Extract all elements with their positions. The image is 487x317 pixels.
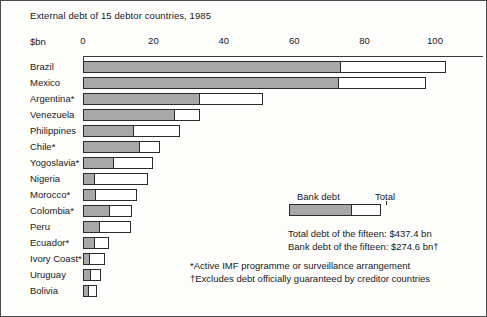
category-label: Uruguay xyxy=(1,267,79,283)
bank-debt-segment xyxy=(84,174,95,184)
total-debt-bar xyxy=(83,253,105,265)
summary-line: Total debt of the fifteen: $437.4 bn xyxy=(288,228,439,241)
bank-debt-segment xyxy=(84,270,91,280)
bank-debt-segment xyxy=(84,158,114,168)
legend-swatch xyxy=(289,204,381,216)
total-debt-bar xyxy=(83,285,97,297)
bar-row xyxy=(83,283,483,299)
category-label: Yogoslavia* xyxy=(1,155,79,171)
bank-debt-segment xyxy=(84,222,100,232)
x-axis-tick-100: 100 xyxy=(427,35,443,46)
chart-title: External debt of 15 debtor countries, 19… xyxy=(30,10,211,21)
category-label: Nigeria xyxy=(1,171,79,187)
category-label: Argentina* xyxy=(1,91,79,107)
summary-annotations: Total debt of the fifteen: $437.4 bnBank… xyxy=(288,228,439,253)
total-debt-bar xyxy=(83,93,263,105)
category-axis-labels: BrazilMexicoArgentina*VenezuelaPhilippin… xyxy=(1,59,79,303)
total-debt-bar xyxy=(83,221,131,233)
bank-debt-segment xyxy=(84,238,95,248)
category-label: Philippines xyxy=(1,123,79,139)
x-axis-tick-40: 40 xyxy=(219,35,230,46)
total-debt-bar xyxy=(83,269,101,281)
bar-row xyxy=(83,107,483,123)
total-debt-bar xyxy=(83,205,132,217)
bank-debt-segment xyxy=(84,190,96,200)
legend-label-row: Bank debt Total xyxy=(289,191,419,204)
category-label: Mexico xyxy=(1,75,79,91)
bar-row xyxy=(83,171,483,187)
legend-total-pointer-tick xyxy=(386,201,387,205)
category-label: Venezuela xyxy=(1,107,79,123)
category-label: Peru xyxy=(1,219,79,235)
total-debt-bar xyxy=(83,237,109,249)
x-axis-tick-80: 80 xyxy=(359,35,370,46)
total-debt-bar xyxy=(83,189,137,201)
legend-bank-debt-label: Bank debt xyxy=(297,191,340,202)
total-debt-bar xyxy=(83,157,153,169)
bank-debt-segment xyxy=(84,206,110,216)
x-axis-line xyxy=(83,56,483,57)
total-debt-bar xyxy=(83,141,160,153)
bar-row xyxy=(83,123,483,139)
x-axis-tick-60: 60 xyxy=(289,35,300,46)
x-axis-tick-0: 0 xyxy=(80,35,85,46)
bar-row xyxy=(83,139,483,155)
bar-row xyxy=(83,91,483,107)
category-label: Chile* xyxy=(1,139,79,155)
legend-swatch-bank-portion xyxy=(290,205,352,215)
bar-row xyxy=(83,187,483,203)
bar-row xyxy=(83,203,483,219)
x-axis-tick-labels: 020406080100 xyxy=(83,35,435,57)
bank-debt-segment xyxy=(84,254,90,264)
axis-units-label: $bn xyxy=(30,36,46,47)
chart-figure: External debt of 15 debtor countries, 19… xyxy=(0,0,487,317)
total-debt-bar xyxy=(83,61,446,73)
total-debt-bar xyxy=(83,173,148,185)
chart-footnotes: *Active IMF programme or surveillance ar… xyxy=(190,260,430,285)
bar-row xyxy=(83,155,483,171)
x-axis-tick-20: 20 xyxy=(148,35,159,46)
bar-row xyxy=(83,59,483,75)
total-debt-bar xyxy=(83,109,200,121)
category-label: Brazil xyxy=(1,59,79,75)
bank-debt-segment xyxy=(84,286,89,296)
total-debt-bar xyxy=(83,77,426,89)
category-label: Bolivia xyxy=(1,283,79,299)
bar-row xyxy=(83,75,483,91)
bank-debt-segment xyxy=(84,142,140,152)
category-label: Morocco* xyxy=(1,187,79,203)
bank-debt-segment xyxy=(84,126,134,136)
total-debt-bar xyxy=(83,125,180,137)
summary-line: Bank debt of the fifteen: $274.6 bn† xyxy=(288,241,439,254)
footnote-line: †Excludes debt officially guaranteed by … xyxy=(190,273,430,286)
bank-debt-segment xyxy=(84,94,200,104)
chart-legend: Bank debt Total xyxy=(289,191,419,216)
bank-debt-segment xyxy=(84,78,339,88)
category-label: Ecuador* xyxy=(1,235,79,251)
footnote-line: *Active IMF programme or surveillance ar… xyxy=(190,260,430,273)
category-label: Ivory Coast* xyxy=(1,251,79,267)
bank-debt-segment xyxy=(84,62,341,72)
category-label: Colombia* xyxy=(1,203,79,219)
bank-debt-segment xyxy=(84,110,175,120)
